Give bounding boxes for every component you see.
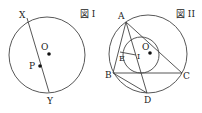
- figure-1: [9, 17, 85, 93]
- label-i: I: [137, 52, 140, 61]
- label-y: Y: [46, 96, 54, 106]
- point-p-dot: [38, 64, 42, 68]
- label-b: B: [105, 70, 112, 80]
- incircle: [123, 37, 159, 73]
- label-c: C: [183, 71, 190, 81]
- chord-xy: [27, 18, 49, 92]
- label-d: D: [144, 95, 151, 105]
- label-a: A: [117, 11, 125, 21]
- fig2-title: 図 II: [176, 9, 195, 19]
- label-o: O: [41, 42, 48, 52]
- point-o-dot: [47, 52, 51, 56]
- label-e: E: [119, 54, 125, 63]
- label-p: P: [29, 61, 35, 71]
- label-o2: O: [142, 42, 149, 52]
- fig1-title: 図 I: [80, 9, 96, 19]
- circle-o: [9, 17, 85, 93]
- label-x: X: [19, 10, 26, 20]
- geometry-diagrams: 図 I X Y O P 図 II A B C D O I E: [0, 0, 202, 113]
